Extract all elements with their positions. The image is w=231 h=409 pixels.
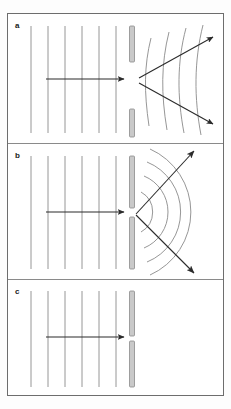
panel-b-ray-arrow-upper	[136, 151, 194, 214]
panel-c-label: c	[15, 288, 19, 296]
panel-b-barrier	[130, 156, 135, 269]
diffraction-figure: a	[0, 0, 231, 409]
panel-c: c	[8, 279, 223, 395]
panel-a-label: a	[15, 22, 19, 30]
panel-c-incident-wavefronts	[31, 291, 116, 387]
panel-a-transmitted-wavefronts	[145, 25, 203, 135]
panel-c-graphics	[8, 279, 223, 395]
panel-b-label: b	[15, 152, 20, 160]
panel-a-ray-arrow-lower	[139, 83, 213, 124]
panel-a-graphics	[8, 14, 223, 143]
panel-c-barrier	[130, 291, 135, 387]
figure-frame: a	[7, 13, 224, 396]
panel-b-graphics	[8, 143, 223, 279]
panel-b-transmitted-wavefronts	[141, 149, 191, 275]
panel-a: a	[8, 14, 223, 143]
panel-b-ray-arrow-lower	[136, 215, 194, 273]
panel-b: b	[8, 143, 223, 279]
panel-a-barrier	[130, 26, 135, 137]
